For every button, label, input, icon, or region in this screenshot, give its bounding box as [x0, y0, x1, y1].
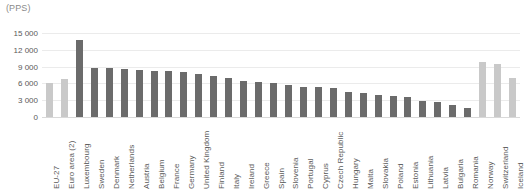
x-tick-label: Germany	[187, 155, 196, 189]
x-tick-label: United Kingdom	[202, 131, 211, 189]
bar	[434, 102, 441, 117]
bar	[479, 62, 486, 117]
x-tick-label: Austria	[142, 163, 151, 189]
x-tick-label: Finland	[217, 162, 226, 189]
bar	[121, 69, 128, 117]
bar	[46, 83, 53, 117]
y-tick-label-6000: 6 000	[18, 79, 38, 88]
x-tick-label: Norway	[486, 161, 495, 189]
bar-chart: (PPS) 03 0006 0009 00012 00015 000 EU-27…	[0, 0, 524, 192]
x-tick-label: Switzerland	[501, 147, 510, 189]
bar	[315, 87, 322, 117]
bar	[345, 92, 352, 117]
x-tick-label: Romania	[471, 156, 480, 189]
x-tick-label: Sweden	[97, 159, 106, 189]
y-tick-label-3000: 3 000	[18, 96, 38, 105]
chart-title: (PPS)	[6, 3, 31, 13]
x-tick-label: Spain	[277, 168, 286, 189]
bar	[180, 72, 187, 117]
bar	[285, 85, 292, 117]
x-axis: EU-27Euro area (2)LuxembourgSwedenDenmar…	[42, 119, 520, 192]
bar	[91, 68, 98, 117]
bar	[509, 78, 516, 117]
x-tick-label: France	[172, 164, 181, 190]
x-tick-label: Poland	[396, 163, 405, 189]
x-tick-label: Luxembourg	[82, 144, 91, 189]
bar	[76, 40, 83, 117]
bar	[195, 74, 202, 117]
bar	[360, 93, 367, 117]
x-tick-label: Iceland	[516, 163, 524, 190]
bar	[210, 76, 217, 117]
x-tick-label: Latvia	[441, 167, 450, 189]
bar	[225, 78, 232, 117]
x-tick-label: Bulgaria	[456, 159, 465, 189]
bar	[270, 83, 277, 117]
y-tick-label-12000: 12 000	[14, 45, 38, 54]
x-tick-label: Portugal	[306, 158, 315, 189]
bar	[106, 68, 113, 117]
x-tick-label: Slovenia	[291, 158, 300, 190]
bar	[404, 97, 411, 117]
x-tick-label: Hungary	[351, 158, 360, 189]
x-tick-label: Euro area (2)	[67, 141, 76, 189]
y-tick-label-0: 0	[34, 113, 38, 122]
x-tick-label: Ireland	[247, 164, 256, 189]
x-tick-label: Cyprus	[321, 163, 330, 189]
bar	[136, 70, 143, 117]
bar	[165, 71, 172, 117]
bar	[61, 79, 68, 117]
bar	[375, 95, 382, 117]
bar	[151, 71, 158, 117]
bar	[464, 108, 471, 117]
y-tick-label-15000: 15 000	[14, 29, 38, 38]
bar	[255, 82, 262, 117]
bar	[300, 87, 307, 117]
bar	[419, 101, 426, 117]
y-tick-label-9000: 9 000	[18, 62, 38, 71]
x-tick-label: Malta	[366, 169, 375, 189]
x-tick-label: Belgium	[157, 159, 166, 189]
x-tick-label: Slovakia	[381, 158, 390, 189]
bar	[240, 81, 247, 117]
x-tick-label: Estonia	[411, 162, 420, 189]
x-tick-label: Netherlands	[127, 145, 136, 189]
bar	[449, 105, 456, 117]
x-tick-label: EU-27	[52, 166, 61, 189]
x-tick-label: Lithuania	[426, 156, 435, 189]
y-axis: 03 0006 0009 00012 00015 000	[0, 33, 38, 117]
bar	[390, 96, 397, 117]
bars-layer	[42, 33, 520, 117]
x-tick-label: Greece	[262, 162, 271, 189]
plot-area	[42, 33, 520, 117]
x-tick-label: Italy	[232, 174, 241, 189]
bar	[494, 64, 501, 117]
x-tick-label: Denmark	[112, 156, 121, 189]
gridline-0	[42, 117, 520, 118]
bar	[330, 88, 337, 117]
x-tick-label: Czech Republic	[336, 132, 345, 189]
